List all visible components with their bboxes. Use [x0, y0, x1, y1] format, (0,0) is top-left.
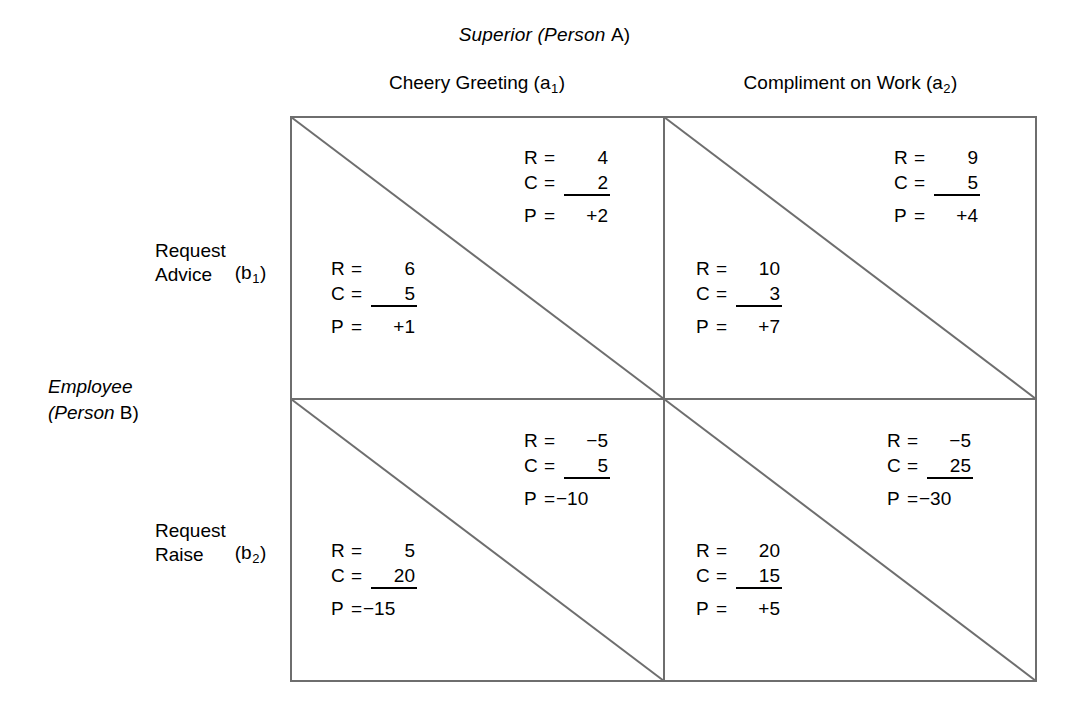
row-header-b2-line2: Raise: [155, 543, 226, 567]
row-header-b1-subscript: 1: [252, 271, 260, 286]
row-group-title-close: ): [133, 402, 139, 423]
row-group-title-line2: (Person B): [48, 400, 139, 426]
payoff-row-r: R = 20: [696, 541, 782, 566]
column-header-a1: Cheery Greeting (a1): [290, 72, 664, 96]
payoff-row-r: R = 5: [331, 541, 417, 566]
payoff-row-r: R = 4: [524, 148, 610, 173]
cell-b1a2-payoff-upper: R = 9 C = 5 P = +4: [894, 148, 980, 231]
payoff-row-r: R = 9: [894, 148, 980, 173]
column-header-a1-subscript: 1: [551, 81, 559, 96]
row-header-b1: Request Advice (b1): [155, 239, 266, 288]
cell-b2a2-payoff-lower: R = 20 C = 15 P = +5: [696, 541, 782, 624]
row-header-b1-tag: (b1): [235, 262, 266, 288]
payoff-row-r: R = 6: [331, 259, 417, 284]
payoff-row-p: P = +1: [331, 317, 417, 342]
cell-b1a1-payoff-lower: R = 6 C = 5 P = +1: [331, 259, 417, 342]
row-header-b2-subscript: 2: [252, 551, 260, 566]
row-header-b2: Request Raise (b2): [155, 519, 266, 568]
payoff-row-c: C = 5: [524, 456, 610, 481]
column-header-a1-tail: ): [559, 72, 565, 93]
column-header-a2-tail: ): [951, 72, 957, 93]
payoff-row-p: P = +7: [696, 317, 782, 342]
payoff-row-p: P = +2: [524, 206, 610, 231]
payoff-row-c: C = 25: [887, 456, 973, 481]
payoff-row-c: C = 5: [894, 173, 980, 198]
payoff-matrix-grid: R = 4 C = 2 P = +2 R = 6 C =: [290, 116, 1037, 682]
row-group-title-person: B: [115, 402, 133, 423]
row-header-b2-tag: (b2): [235, 542, 266, 568]
row-group-title-line2-open: (Person: [48, 402, 115, 423]
column-group-title: Superior (Person A): [0, 24, 1089, 46]
payoff-row-r: R = −5: [887, 431, 973, 456]
cell-b1a1-payoff-upper: R = 4 C = 2 P = +2: [524, 148, 610, 231]
payoff-row-p: P = +5: [696, 599, 782, 624]
column-group-title-person: A: [605, 24, 623, 45]
column-group-title-close: ): [624, 24, 631, 45]
cell-b2a2-payoff-upper: R = −5 C = 25 P = −30: [887, 431, 973, 514]
payoff-row-r: R = −5: [524, 431, 610, 456]
payoff-row-p: P = −15: [331, 599, 417, 624]
column-header-a2-subscript: 2: [943, 81, 951, 96]
payoff-row-c: C = 5: [331, 284, 417, 309]
payoff-row-c: C = 3: [696, 284, 782, 309]
cell-b1a2-payoff-lower: R = 10 C = 3 P = +7: [696, 259, 782, 342]
payoff-row-p: P = −10: [524, 489, 610, 514]
payoff-row-p: P = −30: [887, 489, 973, 514]
cell-b2a1-payoff-lower: R = 5 C = 20 P = −15: [331, 541, 417, 624]
row-header-b2-text: Request Raise: [155, 519, 226, 568]
row-header-b1-line1: Request: [155, 239, 226, 263]
row-header-b2-line1: Request: [155, 519, 226, 543]
payoff-row-c: C = 15: [696, 566, 782, 591]
row-header-b1-text: Request Advice: [155, 239, 226, 288]
row-group-title: Employee (Person B): [48, 374, 139, 425]
column-group-title-italic: Superior (Person: [459, 24, 606, 45]
column-header-a1-text: Cheery Greeting (a: [389, 72, 551, 93]
payoff-row-p: P = +4: [894, 206, 980, 231]
column-header-a2-text: Compliment on Work (a: [744, 72, 943, 93]
column-header-a2: Compliment on Work (a2): [664, 72, 1037, 96]
payoff-row-c: C = 2: [524, 173, 610, 198]
cell-b2a1-payoff-upper: R = −5 C = 5 P = −10: [524, 431, 610, 514]
row-group-title-line1: Employee: [48, 374, 139, 400]
payoff-row-c: C = 20: [331, 566, 417, 591]
payoff-row-r: R = 10: [696, 259, 782, 284]
diagram-canvas: Superior (Person A) Cheery Greeting (a1)…: [0, 0, 1089, 720]
row-header-b1-line2: Advice: [155, 263, 226, 287]
